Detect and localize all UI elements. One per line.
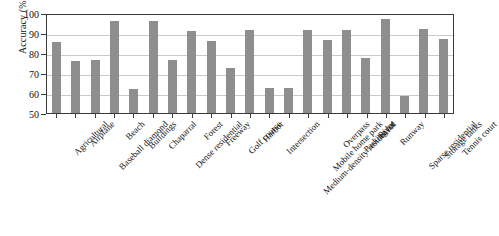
- bar: [91, 60, 100, 113]
- x-tick-mark: [289, 114, 290, 118]
- bar: [168, 60, 177, 113]
- y-tick-label: 70: [29, 69, 39, 80]
- x-tick-mark: [308, 114, 309, 118]
- bar: [400, 96, 409, 113]
- bar-slot: [318, 15, 337, 113]
- bar: [226, 68, 235, 113]
- y-tick-label: 80: [29, 49, 39, 60]
- y-axis-ticks: 5060708090100: [0, 14, 46, 114]
- bar-slot: [376, 15, 395, 113]
- bar-slot: [182, 15, 201, 113]
- bar: [381, 19, 390, 113]
- bar: [323, 40, 332, 113]
- plot-area: [46, 14, 454, 114]
- x-tick-mark: [56, 114, 57, 118]
- x-tick-mark: [114, 114, 115, 118]
- bar-slot: [395, 15, 414, 113]
- x-axis-category-labels: AgriculturalAirplaneBaseball diamondBeac…: [46, 119, 454, 234]
- bar-slot: [144, 15, 163, 113]
- bar: [71, 61, 80, 113]
- bar-slot: [66, 15, 85, 113]
- bar: [361, 58, 370, 113]
- x-tick-mark: [153, 114, 154, 118]
- bar-slot: [124, 15, 143, 113]
- x-category-label: Runway: [398, 119, 426, 147]
- bar-series: [47, 15, 453, 113]
- x-tick-mark: [367, 114, 368, 118]
- y-tick-label: 100: [24, 9, 39, 20]
- x-tick-mark: [405, 114, 406, 118]
- bar-slot: [298, 15, 317, 113]
- bar: [52, 42, 61, 113]
- bar-slot: [86, 15, 105, 113]
- bar-slot: [47, 15, 66, 113]
- x-tick-mark: [133, 114, 134, 118]
- x-tick-mark: [269, 114, 270, 118]
- bar: [303, 30, 312, 113]
- bar-slot: [202, 15, 221, 113]
- x-tick-mark: [444, 114, 445, 118]
- bar: [187, 31, 196, 113]
- x-tick-mark: [172, 114, 173, 118]
- x-tick-mark: [386, 114, 387, 118]
- bar: [207, 41, 216, 113]
- bar-slot: [240, 15, 259, 113]
- x-tick-mark: [75, 114, 76, 118]
- x-tick-mark: [231, 114, 232, 118]
- bar-slot: [356, 15, 375, 113]
- bar: [110, 21, 119, 113]
- x-tick-mark: [328, 114, 329, 118]
- x-tick-mark: [425, 114, 426, 118]
- bar: [439, 39, 448, 113]
- bar-slot: [221, 15, 240, 113]
- y-tick-label: 60: [29, 89, 39, 100]
- bar: [265, 88, 274, 113]
- bar-slot: [260, 15, 279, 113]
- bar: [342, 30, 351, 113]
- bar: [419, 29, 428, 113]
- y-tick-label: 50: [29, 109, 39, 120]
- x-tick-mark: [347, 114, 348, 118]
- bar: [284, 88, 293, 113]
- bar: [129, 89, 138, 113]
- bar-slot: [163, 15, 182, 113]
- x-tick-mark: [192, 114, 193, 118]
- y-tick-label: 90: [29, 29, 39, 40]
- bar-slot: [434, 15, 453, 113]
- bar-slot: [105, 15, 124, 113]
- bar-slot: [279, 15, 298, 113]
- x-tick-mark: [250, 114, 251, 118]
- bar-slot: [337, 15, 356, 113]
- x-tick-mark: [211, 114, 212, 118]
- bar-slot: [414, 15, 433, 113]
- x-tick-mark: [95, 114, 96, 118]
- x-category-label: Harbor: [260, 119, 285, 144]
- x-category-label: Intersection: [285, 119, 322, 156]
- bar: [149, 21, 158, 113]
- bar: [245, 30, 254, 113]
